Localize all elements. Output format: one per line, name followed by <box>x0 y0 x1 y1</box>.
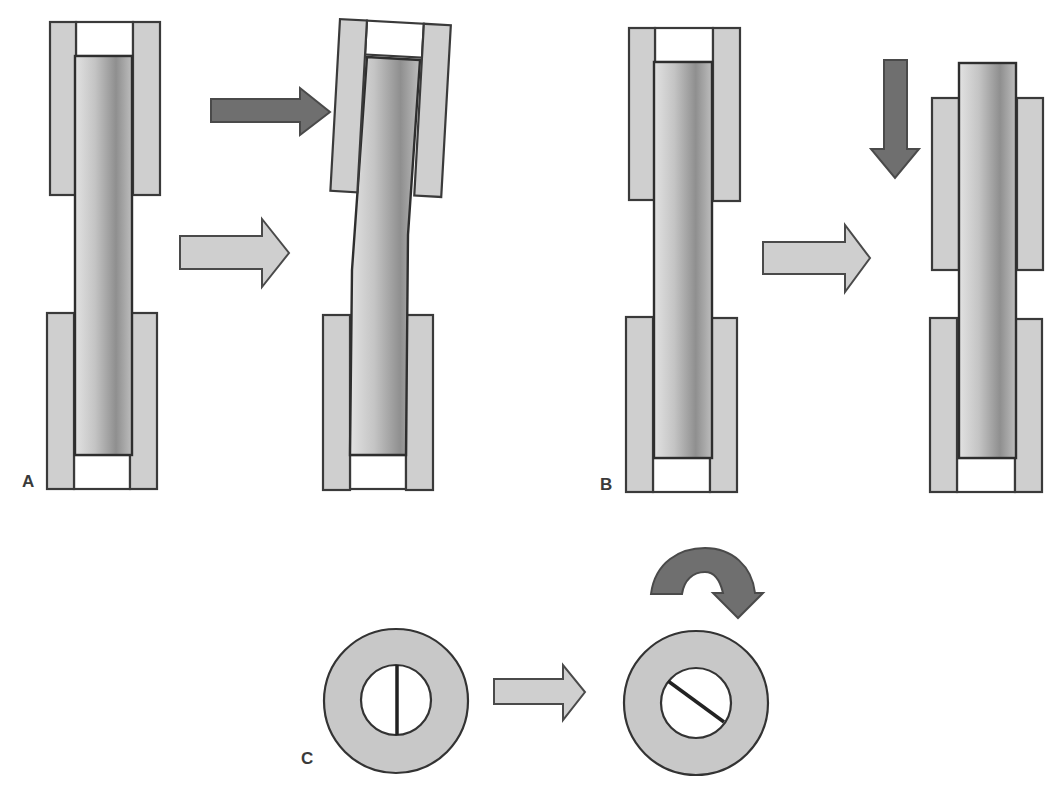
top-holder-left-plate <box>932 98 959 270</box>
panel-b-before <box>626 28 740 492</box>
bottom-holder-left-plate <box>930 318 957 492</box>
bottom-holder-left-plate <box>626 317 653 492</box>
panel-label-c: C <box>301 749 313 768</box>
lateral-force-arrow-icon <box>211 88 330 135</box>
top-holder-left-plate <box>629 28 655 200</box>
bottom-holder-right-plate <box>1015 319 1042 492</box>
top-holder-gap <box>76 22 133 56</box>
rod <box>75 56 132 455</box>
bottom-holder-gap <box>74 455 130 489</box>
top-holder-gap <box>655 28 713 62</box>
transition-arrow-right-icon <box>494 665 585 720</box>
cross-section-after <box>624 631 768 775</box>
panel-b-after <box>930 63 1043 492</box>
shifted-rod <box>959 63 1016 458</box>
bottom-holder-left-plate <box>323 315 350 490</box>
rod <box>654 62 712 458</box>
axial-force-arrow-icon <box>871 60 919 178</box>
panel-a: A <box>22 19 451 491</box>
top-holder-right-plate <box>713 28 740 201</box>
bottom-holder-gap <box>350 455 406 489</box>
bottom-holder-right-plate <box>406 315 433 490</box>
transition-arrow-right-icon <box>180 219 289 287</box>
panel-b: B <box>600 28 1043 494</box>
top-holder-right-plate <box>1017 98 1043 270</box>
panel-label-a: A <box>22 472 34 491</box>
top-holder-left-plate <box>50 22 76 195</box>
top-holder-right-plate <box>133 22 160 195</box>
panel-a-after <box>323 19 451 490</box>
top-holder-gap <box>365 21 424 58</box>
transition-arrow-right-icon <box>763 225 870 292</box>
bottom-holder-right-plate <box>710 318 737 492</box>
panel-c: C <box>301 548 768 775</box>
cross-section-before <box>324 629 468 773</box>
bottom-holder-gap <box>957 458 1015 492</box>
bottom-holder-gap <box>653 458 710 492</box>
panel-label-b: B <box>600 475 612 494</box>
torsion-rotate-arrow-icon <box>651 548 763 618</box>
bottom-holder-right-plate <box>130 313 157 489</box>
figure: A B <box>0 0 1055 789</box>
bottom-holder-left-plate <box>47 313 74 489</box>
panel-a-before <box>47 22 160 489</box>
